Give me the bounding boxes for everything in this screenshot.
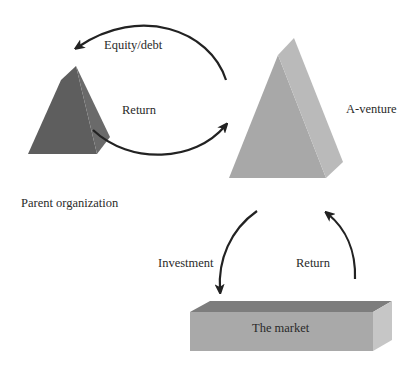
investment-label: Investment [158, 256, 214, 270]
equity-debt-arrow [78, 26, 226, 80]
investment-arrow [220, 211, 257, 290]
a-venture-label: A-venture [346, 102, 397, 116]
parent-organization-label: Parent organization [21, 196, 119, 210]
market-box-top-face [190, 301, 392, 312]
return-label-bottom: Return [296, 256, 331, 270]
a-venture-pyramid [229, 38, 343, 178]
parent-organization-pyramid [28, 66, 110, 154]
the-market-label: The market [252, 321, 310, 335]
return-to-venture-arrow [93, 126, 225, 155]
return-from-market-arrow [328, 214, 355, 279]
equity-debt-label: Equity/debt [104, 38, 163, 52]
return-label-top: Return [122, 103, 157, 117]
diagram-canvas: Equity/debt Return A-venture Parent orga… [0, 0, 417, 369]
